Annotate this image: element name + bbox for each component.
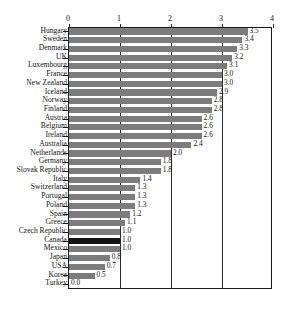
bar (69, 229, 120, 235)
bar (69, 116, 202, 122)
y-axis-tick (63, 153, 68, 154)
y-axis-tick (63, 197, 68, 198)
y-axis-tick (63, 180, 68, 181)
y-axis-tick (63, 49, 68, 50)
bar (69, 220, 125, 226)
bar-value-label: 2.8 (212, 105, 223, 114)
bar (69, 37, 242, 43)
bar (69, 177, 140, 183)
bar-row: Denmark3.3 (0, 44, 290, 53)
x-axis-tick-label: 1 (117, 14, 121, 24)
bar (69, 185, 135, 191)
bar (69, 46, 237, 52)
bar-row: Spain1.2 (0, 210, 290, 219)
bar (69, 28, 248, 34)
y-axis-tick (63, 66, 68, 67)
y-axis-tick (63, 206, 68, 207)
x-axis-tick-label: 0 (66, 14, 70, 24)
bar (69, 124, 202, 130)
bar (69, 203, 135, 209)
bar (69, 264, 105, 270)
bar (69, 238, 120, 244)
y-axis-tick (63, 241, 68, 242)
y-axis-tick (63, 127, 68, 128)
bar-value-label: 0.0 (69, 279, 80, 288)
bar-row: Luxembourg3.1 (0, 62, 290, 71)
bar (69, 107, 212, 113)
y-axis-tick (63, 214, 68, 215)
bar (69, 150, 171, 156)
y-axis-tick (63, 223, 68, 224)
y-axis-tick (63, 275, 68, 276)
bar (69, 98, 212, 104)
y-axis-tick (63, 31, 68, 32)
bar (69, 255, 110, 261)
y-axis-tick (63, 162, 68, 163)
bar (69, 211, 130, 217)
x-axis-tick-label: 3 (219, 14, 223, 24)
y-axis-tick (63, 267, 68, 268)
y-axis-tick (63, 136, 68, 137)
bar-value-label: 1.8 (161, 166, 172, 175)
y-axis-tick (63, 58, 68, 59)
y-axis-tick (63, 171, 68, 172)
bar-row: Belgium2.6 (0, 123, 290, 132)
bar-value-label: 2.6 (202, 131, 213, 140)
bar-value-label: 1.0 (120, 244, 131, 253)
bar-row: Poland1.3 (0, 201, 290, 210)
bar-row: Japan0.8 (0, 254, 290, 263)
bar-row: USA0.7 (0, 262, 290, 271)
y-axis-tick (63, 84, 68, 85)
bar-value-label: 0.5 (95, 271, 106, 280)
y-axis-tick (63, 188, 68, 189)
x-axis-tick-label: 2 (168, 14, 172, 24)
y-axis-tick (63, 284, 68, 285)
bar (69, 55, 232, 61)
bar-value-label: 2.4 (191, 140, 202, 149)
bar-rows: Hungary3.5Sweden3.4Denmark3.3UK3.2Luxemb… (0, 27, 290, 289)
y-axis-tick (63, 249, 68, 250)
bar (69, 72, 222, 78)
y-axis-tick (63, 40, 68, 41)
y-axis-tick (63, 101, 68, 102)
bar (69, 142, 191, 148)
bar-value-label: 2.0 (171, 149, 182, 158)
bar-chart: 01234 Hungary3.5Sweden3.4Denmark3.3UK3.2… (0, 0, 290, 309)
y-axis-tick (63, 258, 68, 259)
y-axis-tick (63, 145, 68, 146)
y-axis-tick (63, 119, 68, 120)
bar (69, 159, 161, 165)
bar-row: New Zealand3.0 (0, 79, 290, 88)
bar-row: Mexico1.0 (0, 245, 290, 254)
bar-row: Turkey0.0 (0, 280, 290, 289)
y-axis-tick (63, 75, 68, 76)
x-axis-tick-labels: 01234 (0, 14, 290, 26)
y-axis-tick (63, 232, 68, 233)
bar-row: Korea0.5 (0, 271, 290, 280)
bar (69, 63, 227, 69)
bar-row: Finland2.8 (0, 105, 290, 114)
bar (69, 133, 202, 139)
x-axis-tick-label: 4 (270, 14, 274, 24)
y-axis-tick (63, 92, 68, 93)
bar (69, 194, 135, 200)
y-axis-tick (63, 110, 68, 111)
bar-value-label: 0.7 (105, 262, 116, 271)
bar (69, 89, 217, 95)
bar (69, 81, 222, 87)
